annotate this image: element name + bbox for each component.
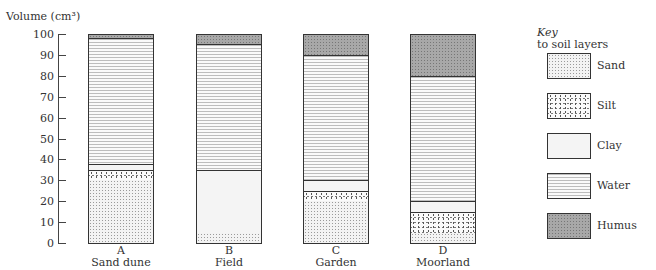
y-tick-label: 50 (24, 134, 54, 145)
y-tick (58, 159, 66, 160)
key-swatch-clay (547, 133, 591, 159)
layer-sand (304, 201, 368, 243)
y-tick (58, 243, 66, 244)
key-swatch-sand (547, 53, 591, 79)
key-swatch-water (547, 173, 591, 199)
layer-silt (304, 191, 368, 201)
layer-sand (89, 180, 153, 243)
key-swatch-humus (547, 213, 591, 239)
key-subtitle: to soil layers (537, 38, 608, 51)
y-tick-label: 100 (24, 29, 54, 40)
key-label-water: Water (597, 179, 630, 192)
layer-silt (89, 170, 153, 180)
y-tick-label: 70 (24, 92, 54, 103)
category-name: Garden (286, 257, 386, 269)
layer-sand (411, 233, 475, 243)
bar-moorland (410, 34, 476, 244)
key-label-humus: Humus (597, 219, 637, 232)
bar-garden (303, 34, 369, 244)
layer-humus (197, 34, 261, 44)
y-tick-label: 0 (24, 238, 54, 249)
layer-humus (411, 34, 475, 76)
category-label: BField (179, 245, 279, 269)
key-swatch-silt (547, 93, 591, 119)
category-label: DMoorland (393, 245, 493, 269)
layer-clay (411, 201, 475, 211)
layer-clay (89, 164, 153, 170)
layer-clay (197, 170, 261, 233)
category-name: Field (179, 257, 279, 269)
y-tick (58, 180, 66, 181)
layer-humus (304, 34, 368, 55)
layer-water (304, 55, 368, 180)
category-label: CGarden (286, 245, 386, 269)
layer-water (89, 38, 153, 163)
layer-silt (411, 212, 475, 233)
key-label-silt: Silt (597, 99, 616, 112)
bar-field (196, 34, 262, 244)
layer-water (197, 44, 261, 169)
y-tick-label: 90 (24, 50, 54, 61)
y-tick (58, 55, 66, 56)
layer-sand (197, 233, 261, 243)
y-tick-label: 80 (24, 71, 54, 82)
layer-humus (89, 34, 153, 38)
y-tick (58, 139, 66, 140)
category-name: Moorland (393, 257, 493, 269)
y-tick (58, 118, 66, 119)
y-tick (58, 34, 66, 35)
y-tick-label: 40 (24, 154, 54, 165)
y-tick (58, 97, 66, 98)
layer-water (411, 76, 475, 201)
y-tick-label: 30 (24, 175, 54, 186)
y-tick-label: 20 (24, 196, 54, 207)
y-tick-label: 10 (24, 217, 54, 228)
key-label-clay: Clay (597, 139, 622, 152)
y-tick (58, 76, 66, 77)
bar-sand-dune (88, 34, 154, 244)
category-name: Sand dune (71, 257, 171, 269)
category-label: ASand dune (71, 245, 171, 269)
key-title: Key to soil layers (537, 27, 608, 51)
layer-clay (304, 180, 368, 190)
y-axis-label: Volume (cm³) (6, 10, 80, 23)
y-tick-label: 60 (24, 113, 54, 124)
key-label-sand: Sand (597, 59, 625, 72)
y-tick (58, 201, 66, 202)
y-tick (58, 222, 66, 223)
